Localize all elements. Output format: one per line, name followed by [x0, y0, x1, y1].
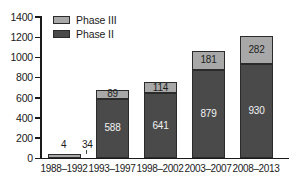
bar-value-phase-ii-4: 879 [200, 109, 216, 119]
bar-value-phase-ii-3: 641 [152, 121, 168, 131]
bar-segment-phase-iii-5: 282 [240, 36, 273, 64]
bar-value-phase-ii-2: 588 [104, 123, 120, 133]
bar-segment-phase-ii-5: 930 [240, 64, 273, 158]
bar-segment-phase-iii-3: 114 [144, 82, 177, 94]
bar-segment-phase-iii-1 [48, 154, 81, 157]
bar-segment-phase-ii-4: 879 [192, 70, 225, 159]
bar-segment-phase-ii-2: 588 [96, 99, 129, 158]
y-axis-label-1400: 1400 [0, 11, 33, 23]
bar-segment-phase-ii-3: 641 [144, 93, 177, 158]
bar-value-phase-iii-4: 181 [200, 55, 216, 65]
stacked-bar-chart: 1400 1200 1000 800 600 400 200 0 4 34 58… [0, 0, 292, 183]
leader-line-1 [86, 150, 87, 154]
bar-value-phase-iii-2: 89 [107, 89, 118, 99]
bar-value-phase-ii-5: 930 [248, 106, 264, 116]
bar-value-phase-iii-3: 114 [153, 83, 168, 93]
x-axis-label-2008-2013: 2008–2013 [228, 163, 284, 174]
bar-value-phase-iii-5: 282 [248, 45, 264, 55]
bar-segment-phase-iii-2: 89 [96, 90, 129, 99]
y-axis-label-800: 800 [0, 71, 33, 83]
bar-value-phase-ii-1: 4 [61, 140, 66, 150]
y-axis-label-600: 600 [0, 92, 33, 104]
legend-label-phase-iii: Phase III [76, 15, 117, 26]
legend-label-phase-ii: Phase II [76, 29, 114, 40]
y-axis-label-0: 0 [0, 152, 33, 164]
y-axis-label-1000: 1000 [0, 51, 33, 63]
legend-item-phase-ii: Phase II [53, 28, 117, 40]
legend-swatch-phase-ii-icon [53, 30, 70, 38]
y-axis-label-400: 400 [0, 112, 33, 124]
bar-segment-phase-iii-4: 181 [192, 51, 225, 69]
bar-value-phase-iii-1: 34 [82, 140, 93, 150]
chart-legend: Phase III Phase II [53, 14, 117, 42]
y-axis-label-1200: 1200 [0, 31, 33, 43]
legend-item-phase-iii: Phase III [53, 14, 117, 26]
y-axis-label-200: 200 [0, 132, 33, 144]
legend-swatch-phase-iii-icon [53, 16, 70, 24]
